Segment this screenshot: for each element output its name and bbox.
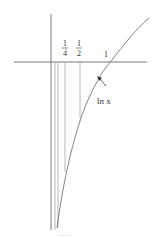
tick-label-half-num: 1	[77, 39, 81, 48]
tick-label-quarter-num: 1	[63, 39, 67, 48]
ln-curve	[57, 18, 149, 228]
ln-graph: 1 4 1 2 1 ln x ... . . . .	[0, 0, 167, 238]
caption-fragment: ... . . . .	[60, 232, 71, 237]
tick-label-half-den: 2	[77, 49, 81, 58]
tick-label-quarter-den: 4	[63, 49, 67, 58]
tick-label-one: 1	[104, 50, 108, 59]
curve-label: ln x	[97, 96, 111, 106]
